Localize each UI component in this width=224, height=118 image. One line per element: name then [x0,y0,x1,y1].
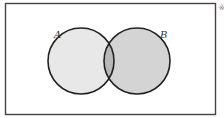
set-b-label: B [159,29,167,40]
set-a-label: A [53,29,61,40]
venn-diagram: A B 𝒰 [0,0,224,118]
universal-set-label: 𝒰 [217,3,224,12]
